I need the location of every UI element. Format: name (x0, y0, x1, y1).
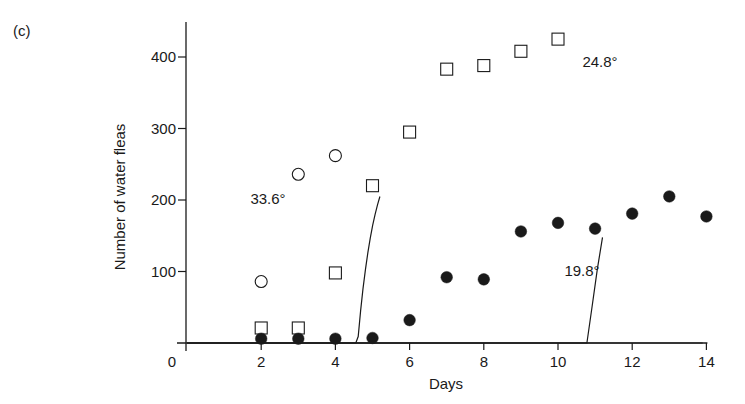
x-tick-label: 0 (168, 353, 176, 370)
filled-circle-marker (293, 333, 305, 345)
filled-circle-marker (589, 223, 601, 235)
fit-curves (187, 197, 703, 344)
x-tick-label: 2 (257, 353, 265, 370)
data-markers (255, 33, 712, 344)
fit-curve (187, 197, 380, 344)
panel-label: (c) (13, 22, 31, 39)
series-label: 19.8° (564, 262, 599, 279)
open-square-marker (441, 63, 453, 75)
x-tick-label: 10 (550, 353, 567, 370)
open-square-marker (515, 45, 527, 57)
open-square-marker (552, 33, 564, 45)
open-circle-marker (292, 168, 304, 180)
open-square-marker (478, 60, 490, 72)
open-square-marker (329, 267, 341, 279)
filled-circle-marker (441, 271, 453, 283)
x-tick-label: 6 (405, 353, 413, 370)
open-square-marker (367, 180, 379, 192)
x-tick-label: 12 (624, 353, 641, 370)
open-circle-marker (255, 276, 267, 288)
filled-circle-marker (626, 208, 638, 220)
y-tick-label: 300 (151, 120, 176, 137)
filled-circle-marker (515, 226, 527, 238)
filled-circle-marker (552, 217, 564, 229)
series-label: 33.6° (250, 190, 285, 207)
open-circle-marker (329, 150, 341, 162)
x-tick-label: 4 (331, 353, 339, 370)
filled-circle-marker (701, 211, 713, 223)
filled-circle-marker (330, 333, 342, 345)
y-tick-label: 400 (151, 48, 176, 65)
chart-container: (c) 02468101214100200300400 33.6°24.8°19… (0, 0, 745, 404)
open-square-marker (255, 322, 267, 334)
x-tick-label: 14 (698, 353, 715, 370)
filled-circle-marker (255, 333, 267, 345)
x-axis-title: Days (429, 375, 463, 392)
fit-curve (187, 237, 603, 343)
scatter-chart: 02468101214100200300400 33.6°24.8°19.8° … (0, 0, 745, 404)
filled-circle-marker (478, 274, 490, 286)
y-tick-label: 100 (151, 263, 176, 280)
filled-circle-marker (367, 332, 379, 344)
y-tick-label: 200 (151, 191, 176, 208)
filled-circle-marker (664, 191, 676, 203)
open-square-marker (292, 322, 304, 334)
filled-circle-marker (404, 314, 416, 326)
y-axis-title: Number of water fleas (111, 124, 128, 271)
x-tick-label: 8 (480, 353, 488, 370)
axes: 02468101214100200300400 (151, 22, 715, 370)
series-labels: 33.6°24.8°19.8° (250, 53, 617, 279)
series-label: 24.8° (582, 53, 617, 70)
open-square-marker (404, 126, 416, 138)
